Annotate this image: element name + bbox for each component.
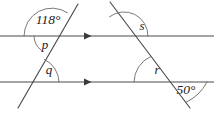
angle-label-r: r bbox=[154, 62, 160, 77]
angle-label-q: q bbox=[46, 62, 53, 77]
angle-label-118: 118° bbox=[36, 12, 61, 27]
angle-arc-p bbox=[34, 36, 42, 50]
angle-arc-r bbox=[134, 57, 151, 82]
geometry-diagram: 118° p q s r 50° bbox=[0, 0, 214, 118]
angle-label-s: s bbox=[139, 18, 144, 33]
geometry-canvas: 118° p q s r 50° bbox=[0, 0, 214, 118]
angle-label-p: p bbox=[41, 37, 49, 52]
top-line-arrow-icon bbox=[84, 32, 92, 39]
angle-label-50: 50° bbox=[177, 82, 197, 97]
bottom-line-arrow-icon bbox=[84, 78, 92, 85]
